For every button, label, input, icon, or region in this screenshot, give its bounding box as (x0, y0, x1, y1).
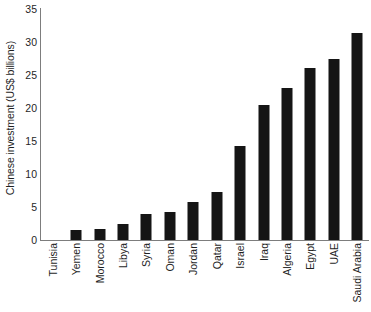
bar (211, 192, 222, 240)
x-axis-label-slot: Jordan (182, 243, 205, 312)
bar-slot (205, 9, 228, 240)
bar (71, 230, 82, 240)
y-axis-tick-label: 10 (25, 169, 37, 180)
bar-slot (41, 9, 64, 240)
bar-slot (252, 9, 275, 240)
bar-slot (158, 9, 181, 240)
bar (141, 214, 152, 240)
y-axis-tick-label: 15 (25, 136, 37, 147)
bar (305, 68, 316, 240)
x-axis-labels: TunisiaYemenMoroccoLibyaSyriaOmanJordanQ… (41, 243, 369, 312)
y-axis-tick-label: 5 (31, 202, 37, 213)
x-axis-tick-label: Jordan (188, 243, 199, 275)
x-axis-tick-label: Israel (235, 243, 246, 269)
x-axis-label-slot: Israel (228, 243, 251, 312)
x-axis-label-slot: UAE (322, 243, 345, 312)
bars-group (41, 9, 369, 240)
y-axis-tick-label: 35 (25, 4, 37, 15)
y-axis-tick-label: 30 (25, 37, 37, 48)
bar-slot (182, 9, 205, 240)
x-axis-label-slot: Tunisia (41, 243, 64, 312)
bar (117, 224, 128, 241)
bar-slot (111, 9, 134, 240)
bar (328, 59, 339, 240)
x-axis-tick-label: Oman (164, 243, 175, 272)
x-axis-label-slot: Oman (158, 243, 181, 312)
bar-slot (228, 9, 251, 240)
x-axis-tick-label: Syria (141, 243, 152, 267)
bar (94, 229, 105, 240)
x-axis-tick-label: Algeria (281, 243, 292, 276)
x-axis-tick-label: Morocco (94, 243, 105, 283)
bar-slot (64, 9, 87, 240)
x-axis-label-slot: Egypt (299, 243, 322, 312)
x-axis-label-slot: Yemen (64, 243, 87, 312)
x-axis-line (40, 240, 369, 241)
bar (164, 212, 175, 240)
x-axis-tick-label: Iraq (258, 243, 269, 261)
bar-chart: Chinese investment (US$ billions) 051015… (0, 0, 371, 312)
bar-slot (322, 9, 345, 240)
x-axis-label-slot: Libya (111, 243, 134, 312)
x-axis-label-slot: Qatar (205, 243, 228, 312)
x-axis-tick-label: Yemen (71, 243, 82, 275)
y-axis-tick-label: 20 (25, 103, 37, 114)
y-axis-title: Chinese investment (US$ billions) (3, 0, 17, 243)
bar (352, 33, 363, 240)
x-axis-label-slot: Morocco (88, 243, 111, 312)
x-axis-tick-label: Saudi Arabia (352, 243, 363, 303)
y-axis-tick-label: 0 (31, 235, 37, 246)
bar-slot (135, 9, 158, 240)
y-axis-tick-label: 25 (25, 70, 37, 81)
bar-slot (275, 9, 298, 240)
x-axis-label-slot: Saudi Arabia (346, 243, 369, 312)
bar (281, 88, 292, 240)
bar-slot (299, 9, 322, 240)
x-axis-tick-label: Egypt (305, 243, 316, 270)
x-axis-label-slot: Iraq (252, 243, 275, 312)
x-axis-tick-label: Tunisia (47, 243, 58, 276)
x-axis-label-slot: Algeria (275, 243, 298, 312)
bar (258, 105, 269, 240)
x-axis-label-slot: Syria (135, 243, 158, 312)
bar-slot (346, 9, 369, 240)
x-axis-tick-label: Qatar (211, 243, 222, 269)
bar (188, 202, 199, 240)
bar (235, 146, 246, 240)
bar-slot (88, 9, 111, 240)
x-axis-tick-label: UAE (328, 243, 339, 265)
x-axis-tick-label: Libya (117, 243, 128, 268)
